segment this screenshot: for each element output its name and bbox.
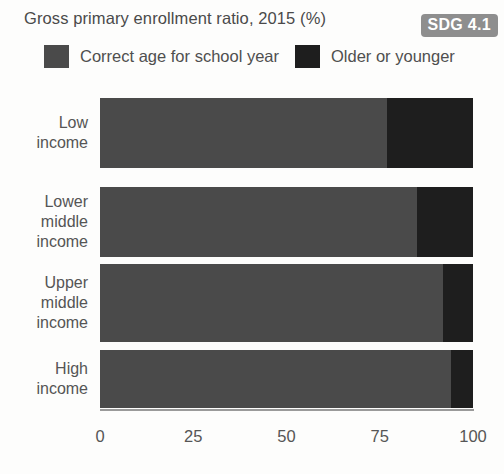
- x-axis-tick-label: 25: [184, 427, 202, 446]
- bar-row-label: Lower middle income: [0, 192, 88, 252]
- x-axis-tick-label: 100: [459, 427, 487, 446]
- bar-segment-correct-age: [100, 350, 451, 408]
- bar-segment-older-younger: [387, 98, 473, 168]
- bar-row-label: Upper middle income: [0, 273, 88, 333]
- bar-row: Lower middle income: [0, 187, 504, 257]
- bar-segment-older-younger: [443, 264, 473, 342]
- bar-segment-correct-age: [100, 264, 443, 342]
- bar-row: Low income: [0, 98, 504, 168]
- stacked-bar: [100, 264, 473, 342]
- bar-row-label: Low income: [0, 113, 88, 153]
- bar-row-label: High income: [0, 359, 88, 399]
- bar-segment-older-younger: [417, 187, 473, 257]
- x-axis-tick-label: 0: [95, 427, 104, 446]
- stacked-bar: [100, 187, 473, 257]
- bar-segment-correct-age: [100, 187, 417, 257]
- plot-area: Low incomeLower middle incomeUpper middl…: [0, 0, 504, 474]
- bar-segment-correct-age: [100, 98, 387, 168]
- x-axis-tick-label: 50: [277, 427, 295, 446]
- bar-row: High income: [0, 350, 504, 408]
- bar-row: Upper middle income: [0, 264, 504, 342]
- bar-segment-older-younger: [451, 350, 473, 408]
- x-axis-line: [100, 409, 474, 411]
- stacked-bar: [100, 98, 473, 168]
- chart-container: Gross primary enrollment ratio, 2015 (%)…: [0, 0, 504, 474]
- x-axis-tick-label: 75: [371, 427, 389, 446]
- stacked-bar: [100, 350, 473, 408]
